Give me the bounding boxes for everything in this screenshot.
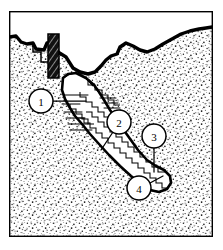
callout-2-label: 2	[116, 117, 122, 129]
callout-3-label: 3	[151, 131, 157, 143]
figure-root: 1 2 3 4	[0, 0, 223, 250]
callout-1-label: 1	[38, 96, 44, 108]
callout-2[interactable]: 2	[107, 110, 131, 134]
callout-4-label: 4	[136, 183, 142, 195]
callout-4[interactable]: 4	[127, 176, 151, 200]
callout-1[interactable]: 1	[29, 89, 53, 113]
callout-3[interactable]: 3	[142, 124, 166, 148]
cross-section-figure: 1 2 3 4	[0, 0, 223, 250]
vertical-shaft	[48, 34, 59, 78]
